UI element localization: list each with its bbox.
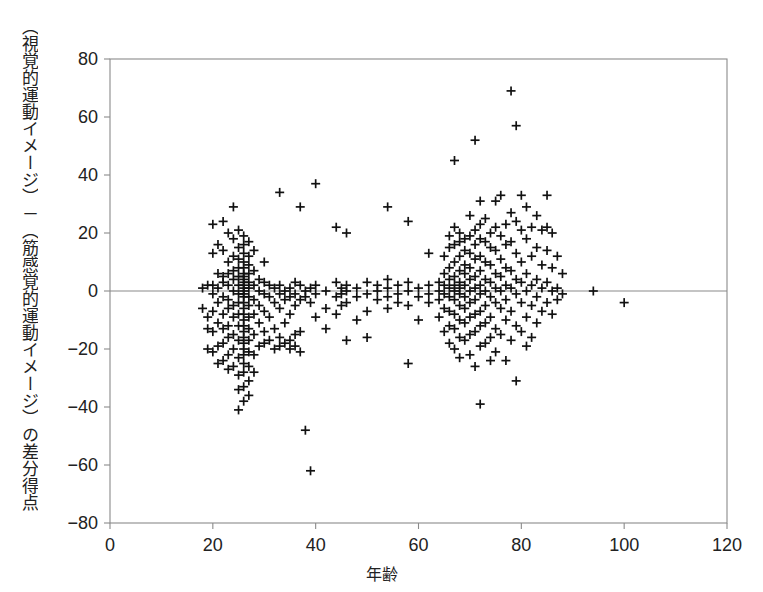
data-point [507,208,516,217]
data-point [537,260,546,269]
data-point [532,211,541,220]
data-point [219,310,228,319]
y-tick-label: 0 [88,281,98,301]
data-point [481,214,490,223]
data-point [352,292,361,301]
data-point [352,316,361,325]
data-point [208,220,217,229]
data-point [496,255,505,264]
data-point [332,223,341,232]
data-point [213,240,222,249]
data-point [532,243,541,252]
data-point [404,278,413,287]
data-point [213,318,222,327]
data-point [280,318,289,327]
data-point [208,307,217,316]
data-point [275,304,284,313]
data-point [260,307,269,316]
data-point [373,295,382,304]
data-point [527,281,536,290]
data-point [229,234,238,243]
data-point [260,258,269,267]
data-point [363,307,372,316]
y-tick-label: 80 [78,49,98,69]
data-point [491,324,500,333]
data-point [363,333,372,342]
data-point [260,327,269,336]
data-point [404,287,413,296]
data-point [465,211,474,220]
data-point [213,298,222,307]
data-point [471,240,480,249]
data-point [517,298,526,307]
data-point [522,313,531,322]
data-point [522,202,531,211]
data-point [486,356,495,365]
data-point [239,397,248,406]
data-point [383,304,392,313]
data-point [445,231,454,240]
y-tick-label: 60 [78,107,98,127]
data-point [270,324,279,333]
data-point [532,292,541,301]
data-point [296,347,305,356]
data-point [548,310,557,319]
data-point [332,278,341,287]
data-point [558,269,567,278]
data-point [543,246,552,255]
data-point [383,275,392,284]
data-point [440,327,449,336]
data-point [548,229,557,238]
x-tick-label: 20 [203,535,223,555]
data-point [532,275,541,284]
data-point [455,353,464,362]
data-point [548,263,557,272]
data-point [275,333,284,342]
data-point [219,217,228,226]
data-point [507,86,516,95]
data-point [476,266,485,275]
data-point [450,156,459,165]
data-point [476,197,485,206]
data-point [342,229,351,238]
data-point [517,226,526,235]
data-point [476,220,485,229]
y-tick-label: 40 [78,165,98,185]
data-point [311,179,320,188]
data-point [527,252,536,261]
data-point [393,281,402,290]
data-point [203,313,212,322]
data-point [543,298,552,307]
data-point [532,318,541,327]
x-tick-label: 60 [408,535,428,555]
data-point [527,333,536,342]
data-point [491,347,500,356]
data-point [265,313,274,322]
data-point-group [198,86,629,475]
data-point [321,324,330,333]
scatter-plot-figure: （視覚的運動イメージ）－（筋感覚的運動イメージ）の差分得点 年齢 −80−60−… [0,0,763,592]
data-point [450,223,459,232]
data-point [471,226,480,235]
x-tick-label: 0 [105,535,115,555]
data-point [496,231,505,240]
data-point [275,188,284,197]
data-point [224,229,233,238]
data-point [424,249,433,258]
data-point [512,376,521,385]
y-tick-label: 20 [78,223,98,243]
data-point [496,330,505,339]
data-point [486,229,495,238]
data-point [414,292,423,301]
data-point [383,202,392,211]
data-point [404,301,413,310]
data-point [445,339,454,348]
data-point [507,307,516,316]
data-point [527,301,536,310]
data-point [234,226,243,235]
data-point [465,350,474,359]
data-point [363,278,372,287]
data-point [311,313,320,322]
x-tick-label: 100 [609,535,639,555]
data-point [522,342,531,351]
